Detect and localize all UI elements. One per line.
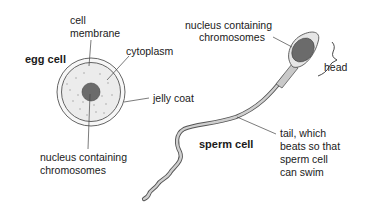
leader-jelly-coat [124, 98, 149, 102]
egg-membrane-label-2: membrane [70, 27, 120, 39]
egg-nucleus-label-2: chromosomes [40, 164, 106, 176]
egg-nucleus [82, 83, 100, 101]
sperm-nucleus-label-1: nucleus containing [185, 19, 272, 31]
sperm-tail-label-2: beats so that [280, 140, 340, 152]
egg-cytoplasm-label: cytoplasm [126, 45, 174, 57]
leader-sperm-tail [237, 117, 276, 134]
cells-diagram: egg cell cell membrane cytoplasm jelly c… [0, 0, 371, 205]
sperm-tail-label-4: can swim [280, 166, 324, 178]
sperm-tail-label-3: sperm cell [280, 153, 328, 165]
egg-cell-title: egg cell [25, 53, 66, 65]
sperm-head-label: head [324, 61, 348, 73]
egg-membrane-label-1: cell [70, 14, 86, 26]
sperm-tail-label-1: tail, which [280, 127, 326, 139]
sperm-nucleus-label-2: chromosomes [199, 31, 265, 43]
egg-nucleus-label-1: nucleus containing [40, 151, 127, 163]
egg-cell [57, 58, 125, 126]
leader-sperm-nucleus [273, 37, 292, 47]
egg-jelly-coat-label: jelly coat [152, 92, 194, 104]
sperm-cell-title: sperm cell [199, 138, 253, 150]
